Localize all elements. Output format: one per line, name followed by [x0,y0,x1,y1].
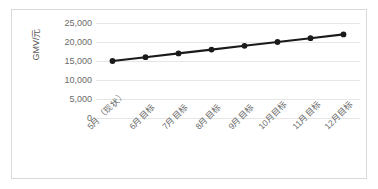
x-tick-label: 8月目标 [192,101,223,132]
y-tick-label: 25,000 [46,19,92,28]
y-axis-tick-labels: 05,00010,00015,00020,00025,000 [46,10,92,180]
x-tick-label: 10月目标 [255,97,289,131]
x-axis-tick-labels: 5月（现状）6月目标7月目标8月目标9月目标10月目标11月目标12月目标 [96,10,360,180]
chart-container: GMV/元 05,00010,00015,00020,00025,000 5月（… [11,9,367,179]
x-tick-label: 11月目标 [289,98,323,132]
y-tick-label: 20,000 [46,38,92,47]
y-tick-label: 10,000 [46,76,92,85]
x-tick-label: 12月目标 [321,97,355,131]
x-tick-label: 6月目标 [126,101,157,132]
plot-area: 5月（现状）6月目标7月目标8月目标9月目标10月目标11月目标12月目标 [96,10,360,180]
y-axis-title: GMV/元 [29,10,42,80]
x-tick-label: 7月目标 [159,101,190,132]
y-tick-label: 5,000 [46,95,92,104]
x-tick-label: 9月目标 [225,101,256,132]
y-tick-label: 15,000 [46,57,92,66]
